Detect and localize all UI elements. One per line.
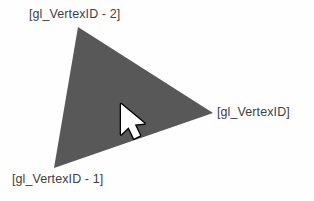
- diagram-canvas: [gl_VertexID - 2] [gl_VertexID] [gl_Vert…: [0, 0, 314, 201]
- triangle-diagram: [0, 0, 314, 201]
- vertex-label-top: [gl_VertexID - 2]: [29, 8, 120, 21]
- vertex-label-right: [gl_VertexID]: [217, 106, 290, 119]
- triangle-shape: [54, 27, 213, 168]
- vertex-label-bottom-left: [gl_VertexID - 1]: [12, 173, 103, 186]
